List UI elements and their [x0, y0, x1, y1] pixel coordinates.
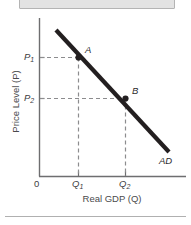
- x-tick-label-q2: Q2: [119, 178, 130, 189]
- origin-label: 0: [34, 178, 39, 189]
- y-tick-label-p1: P1: [24, 51, 34, 62]
- bottom-divider: [5, 216, 186, 217]
- point-label-b: B: [132, 85, 138, 96]
- x-tick-label-q1: Q1: [72, 178, 83, 189]
- y-axis-title: Price Level (P): [10, 37, 21, 167]
- aggregate-demand-figure: P1 P2 Q1 Q2 0 A B AD Price Level (P) Rea…: [0, 0, 191, 225]
- ad-curve: [56, 30, 169, 152]
- point-marker-b: [122, 95, 128, 101]
- point-label-a: A: [85, 44, 91, 55]
- ad-curve-plot: [0, 0, 191, 225]
- point-marker-a: [75, 54, 81, 60]
- x-axis-title: Real GDP (Q): [39, 193, 185, 204]
- ad-curve-label: AD: [159, 155, 172, 166]
- y-tick-label-p2: P2: [24, 92, 34, 103]
